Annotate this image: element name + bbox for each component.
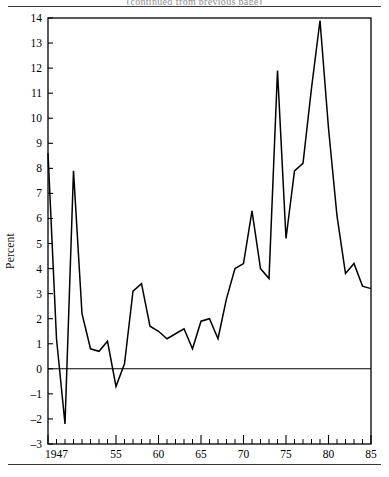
x-tick-label: 70 [238,448,250,460]
plot-frame-border [48,18,371,444]
y-tick-label: 12 [31,62,43,74]
y-tick-label: 4 [36,263,42,275]
y-tick-label: 0 [36,363,42,375]
y-tick-label: 7 [36,187,42,199]
y-tick-label: –2 [30,413,43,425]
x-tick-label: 60 [153,448,165,460]
figure-container: (continued from previous page) Percent –… [0,0,389,477]
x-axis-tick-labels: 194755606570758085 [45,448,377,460]
y-tick-label: 6 [36,212,42,224]
x-axis-ticks [48,435,371,444]
x-tick-label: 75 [280,448,292,460]
x-tick-label: 65 [195,448,207,460]
y-axis-tick-labels: –3–2–101234567891011121314 [30,12,43,450]
bottom-horizontal-rule [8,464,381,465]
y-tick-label: 5 [36,238,42,250]
x-tick-label: 1947 [45,448,68,460]
y-tick-label: 9 [36,137,42,149]
y-tick-label: –1 [30,388,43,400]
y-tick-label: 14 [31,12,43,24]
chart-plot-area: –3–2–101234567891011121314 1947556065707… [0,0,389,477]
y-tick-label: 2 [36,313,42,325]
y-tick-label: 3 [36,288,42,300]
inflation-series-line [48,21,371,424]
y-tick-label: 13 [31,37,43,49]
y-tick-label: –3 [30,438,43,450]
y-tick-label: 8 [36,162,42,174]
y-tick-label: 10 [31,112,43,124]
y-tick-label: 11 [31,87,42,99]
y-tick-label: 1 [36,338,42,350]
x-tick-label: 85 [365,448,377,460]
x-tick-label: 80 [323,448,335,460]
x-tick-label: 55 [110,448,122,460]
